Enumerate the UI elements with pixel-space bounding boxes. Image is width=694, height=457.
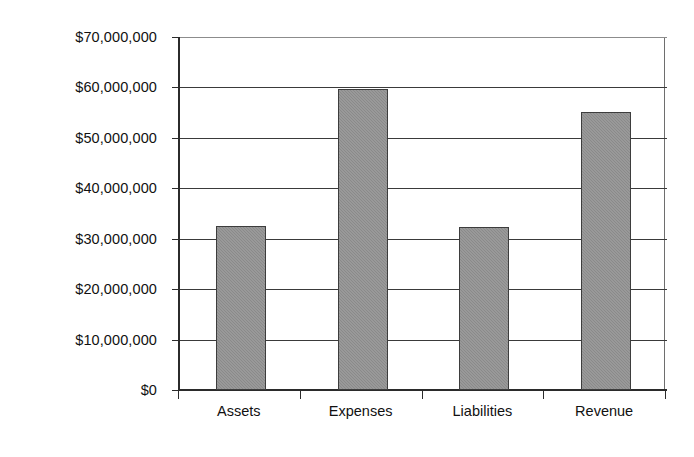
plot-area [178,37,665,390]
bar [338,89,388,390]
x-axis-tick [178,390,179,399]
y-axis-tick-label: $10,000,000 [75,333,157,348]
bar [459,227,509,390]
bar-chart: $0$10,000,000$20,000,000$30,000,000$40,0… [0,0,694,457]
x-axis-category-label: Assets [169,404,309,419]
y-axis-tick-label: $60,000,000 [75,80,157,95]
x-axis-tick [422,390,423,399]
gridline [180,37,667,38]
x-axis-tick [300,390,301,399]
x-axis-tick [665,390,666,399]
bar [581,112,631,390]
y-axis-tick-label: $40,000,000 [75,181,157,196]
y-axis-tick-label: $0 [141,383,157,398]
y-axis-tick-label: $50,000,000 [75,131,157,146]
gridline [180,87,667,88]
x-axis-category-label: Liabilities [412,404,552,419]
y-axis-tick-label: $20,000,000 [75,282,157,297]
y-axis-tick-label: $30,000,000 [75,232,157,247]
x-axis-category-label: Revenue [534,404,674,419]
y-axis-tick-label: $70,000,000 [75,30,157,45]
x-axis-tick [543,390,544,399]
x-axis-category-label: Expenses [291,404,431,419]
bar [216,226,266,390]
